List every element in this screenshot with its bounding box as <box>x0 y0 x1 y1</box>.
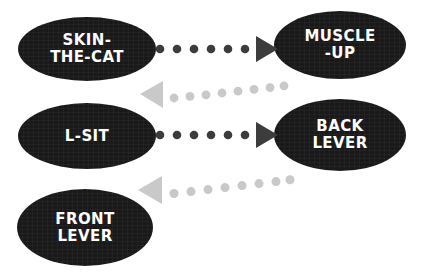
node-label-back-lever: BACK LEVER <box>306 118 373 152</box>
arrow-muscle-up-to-l-sit <box>138 74 286 114</box>
node-l-sit[interactable]: L-SIT <box>18 103 156 169</box>
node-back-lever[interactable]: BACK LEVER <box>274 99 406 171</box>
arrow-back-lever-to-front-lever <box>136 163 292 211</box>
node-skin-the-cat[interactable]: SKIN- THE-CAT <box>18 17 156 81</box>
node-label-skin-the-cat: SKIN- THE-CAT <box>44 32 130 66</box>
node-label-front-lever: FRONT LEVER <box>49 211 120 245</box>
node-label-muscle-up: MUSCLE -UP <box>298 28 381 62</box>
node-label-l-sit: L-SIT <box>59 128 115 145</box>
arrow-l-sit-to-back-lever <box>152 119 278 151</box>
diagram-canvas: SKIN- THE-CAT MUSCLE -UP L-SIT BACK LEVE… <box>0 0 423 272</box>
arrow-skin-the-cat-to-muscle-up <box>152 33 278 65</box>
node-muscle-up[interactable]: MUSCLE -UP <box>274 11 406 79</box>
node-front-lever[interactable]: FRONT LEVER <box>17 189 153 266</box>
